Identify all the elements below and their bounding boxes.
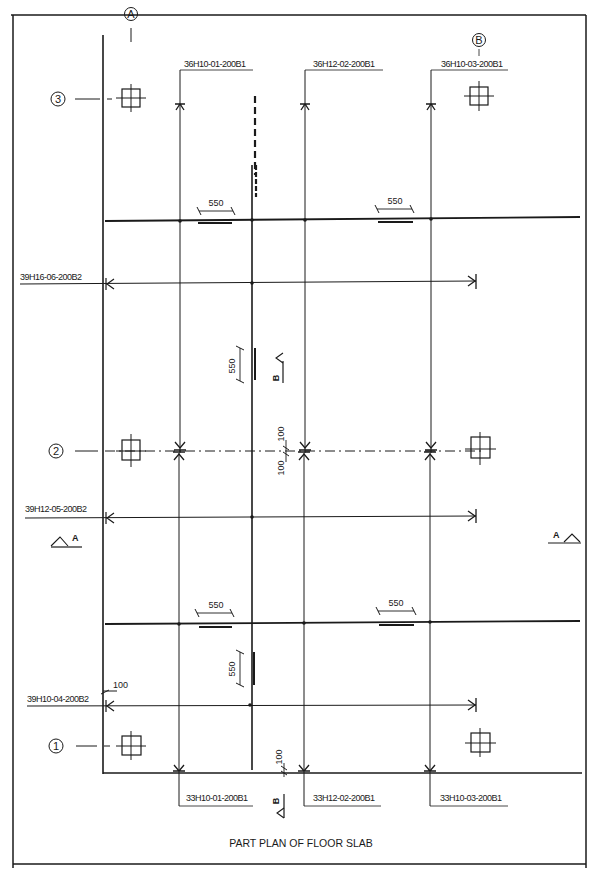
left-bar-mark-2: 39H12-05-200B2 xyxy=(25,504,87,514)
dim-lap-bottom-right: 550 xyxy=(388,598,403,608)
column-a3 xyxy=(116,84,146,112)
dim-cover-left: 100 xyxy=(113,680,128,690)
grid-column-a: A xyxy=(125,8,138,43)
grid-label-a: A xyxy=(127,8,135,20)
lap-bottom-right: 550 xyxy=(376,598,416,625)
column-b1 xyxy=(465,728,496,757)
dim-cover-row2-top: 100 xyxy=(276,426,286,441)
beam-lower xyxy=(105,621,580,624)
top-bar-1: 36H10-01-200B1 xyxy=(174,59,253,453)
beam-upper xyxy=(105,217,580,221)
top-bar-3: 36H10-03-200B1 xyxy=(425,59,508,453)
dim-lap-vertical-lower: 550 xyxy=(227,661,237,676)
dim-cover-row2-bottom: 100 xyxy=(276,460,286,475)
grid-label-b: B xyxy=(475,34,482,46)
grid-column-b: B xyxy=(473,34,486,57)
column-b3 xyxy=(464,81,494,111)
top-bar-2: 36H12-02-200B1 xyxy=(299,59,383,453)
left-bar-2: 39H12-05-200B2 xyxy=(25,504,476,524)
grid-label-3: 3 xyxy=(55,93,61,105)
section-label-a-right: A xyxy=(553,530,560,540)
bottom-bar-2: 33H12-02-200B1 xyxy=(298,452,381,806)
left-bar-1: 39H16-06-200B2 xyxy=(20,272,476,290)
grid-row-2: 2 xyxy=(49,444,485,458)
bottom-bar-3: 33H10-03-200B1 xyxy=(424,452,508,806)
bottom-bar-mark-2: 33H12-02-200B1 xyxy=(313,793,375,803)
top-bar-mark-2: 36H12-02-200B1 xyxy=(313,59,375,69)
bottom-bar-mark-3: 33H10-03-200B1 xyxy=(440,793,502,803)
top-bar-mark-1: 36H10-01-200B1 xyxy=(184,59,246,69)
dim-lap-vertical-upper: 550 xyxy=(227,358,237,373)
column-b2 xyxy=(465,432,496,465)
top-bar-mark-3: 36H10-03-200B1 xyxy=(441,59,503,69)
grid-label-2: 2 xyxy=(53,445,59,457)
lap-vertical-lower: 550 xyxy=(227,650,254,687)
grid-row-1: 1 xyxy=(49,739,110,753)
dim-cover-bottom: 100 xyxy=(274,749,284,764)
left-bar-mark-1: 39H16-06-200B2 xyxy=(20,272,82,282)
section-label-b-lower: B xyxy=(271,797,281,804)
dim-lap-top-left: 550 xyxy=(208,198,223,208)
section-label-b-upper: B xyxy=(271,374,281,381)
drawing-title: PART PLAN OF FLOOR SLAB xyxy=(229,837,373,849)
section-label-a-left: A xyxy=(72,533,79,543)
column-a1 xyxy=(116,731,146,760)
bottom-bar-mark-1: 33H10-01-200B1 xyxy=(186,793,248,803)
section-mark-b-upper: B xyxy=(271,353,283,383)
left-bar-mark-3: 39H10-04-200B2 xyxy=(27,694,89,704)
section-mark-b-lower: B xyxy=(271,794,284,818)
dim-lap-bottom-left: 550 xyxy=(208,600,223,610)
floor-slab-plan-drawing: A B 3 2 1 xyxy=(0,0,602,878)
section-mark-a-right: A xyxy=(548,530,581,543)
column-a2 xyxy=(116,434,146,467)
dim-lap-top-right: 550 xyxy=(387,196,402,206)
bottom-bar-1: 33H10-01-200B1 xyxy=(173,452,253,806)
grid-label-1: 1 xyxy=(53,740,59,752)
lap-vertical-upper: 550 xyxy=(227,346,255,383)
section-mark-a-left: A xyxy=(51,533,82,547)
